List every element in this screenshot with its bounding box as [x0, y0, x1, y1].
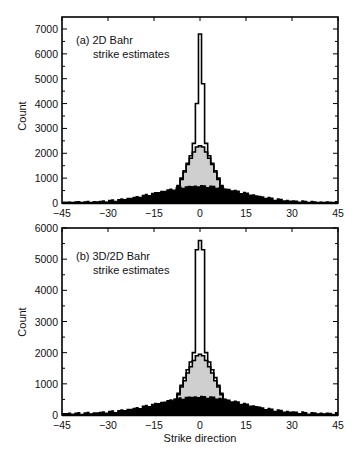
broad-histogram	[62, 185, 338, 203]
x-tick-label: 45	[332, 419, 344, 431]
y-tick-label: 5000	[35, 73, 59, 85]
panel-a-label-line1: (a) 2D Bahr	[76, 34, 133, 46]
x-tick-label: −30	[99, 419, 117, 431]
x-tick-label: −30	[99, 207, 117, 219]
x-axis-label: Strike direction	[164, 432, 237, 444]
panel-a-y-axis-label: Count	[16, 101, 28, 130]
panel-b-label-line1: (b) 3D/2D Bahr	[76, 250, 150, 262]
y-tick-label: 6000	[35, 48, 59, 60]
panel-b-label-line2: strike estimates	[93, 264, 170, 276]
broad-histogram	[62, 396, 338, 415]
y-tick-label: 2000	[35, 347, 59, 359]
y-tick-label: 4000	[35, 284, 59, 296]
y-tick-label: 1000	[35, 172, 59, 184]
panel-a-label-line2: strike estimates	[93, 48, 170, 60]
x-tick-label: −15	[145, 207, 163, 219]
x-tick-label: 0	[197, 207, 203, 219]
y-tick-label: 7000	[35, 23, 59, 35]
y-tick-label: 1000	[35, 378, 59, 390]
y-tick-label: 5000	[35, 253, 59, 265]
y-tick-label: 4000	[35, 98, 59, 110]
x-tick-label: 30	[286, 419, 298, 431]
x-tick-label: 30	[286, 207, 298, 219]
y-tick-label: 3000	[35, 122, 59, 134]
y-tick-label: 3000	[35, 316, 59, 328]
y-tick-label: 0	[52, 409, 58, 421]
x-tick-label: 45	[332, 207, 344, 219]
y-tick-label: 2000	[35, 147, 59, 159]
x-tick-label: 0	[197, 419, 203, 431]
x-tick-label: 15	[240, 419, 252, 431]
x-tick-label: 15	[240, 207, 252, 219]
y-tick-label: 0	[52, 197, 58, 209]
y-tick-label: 6000	[35, 222, 59, 234]
panel-a-2d-bahr: −45−30−150153045010002000300040005000600…	[35, 17, 344, 219]
panel-b-y-axis-label: Count	[16, 307, 28, 336]
x-tick-label: −15	[145, 419, 163, 431]
histogram-figure: −45−30−150153045010002000300040005000600…	[0, 0, 360, 454]
